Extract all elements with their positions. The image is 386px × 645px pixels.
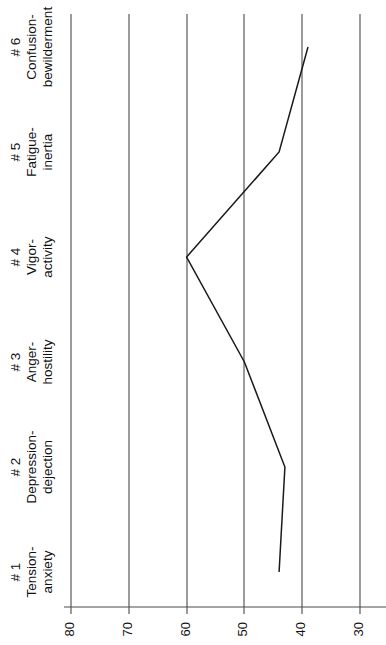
category-1-line1: Tension- [24, 546, 39, 597]
tick-label-50: 50 [235, 622, 250, 636]
category-5-line1: Fatigue- [24, 127, 39, 177]
category-6-line1: Confusion- [24, 14, 39, 79]
tick-label-40: 40 [293, 622, 308, 636]
tick-label-70: 70 [120, 622, 135, 636]
category-4-line2: activity [40, 236, 55, 278]
category-5-number: # 5 [8, 143, 23, 162]
category-5-line2: inertia [40, 133, 55, 170]
chart-background [0, 0, 386, 645]
category-1-line2: anxiety [40, 550, 55, 593]
category-3-number: # 3 [8, 353, 23, 372]
category-4-number: # 4 [8, 247, 23, 266]
category-2-number: # 2 [8, 458, 23, 477]
tick-label-80: 80 [62, 622, 77, 636]
category-1-number: # 1 [8, 563, 23, 582]
category-2-line1: Depression- [24, 431, 39, 504]
category-4-line1: Vigor- [24, 239, 39, 275]
category-2-line2: dejection [40, 440, 55, 494]
poms-profile-chart: 80 70 60 50 40 30 # 1 Tension- anxiety #… [0, 0, 386, 645]
category-3-line1: Anger- [24, 342, 39, 383]
category-6-number: # 6 [8, 38, 23, 57]
tick-label-60: 60 [178, 622, 193, 636]
category-3-line2: hostility [40, 339, 55, 384]
tick-label-30: 30 [351, 622, 366, 636]
chart-canvas: 80 70 60 50 40 30 # 1 Tension- anxiety #… [0, 0, 386, 645]
category-6-line2: bewilderment [40, 7, 55, 88]
